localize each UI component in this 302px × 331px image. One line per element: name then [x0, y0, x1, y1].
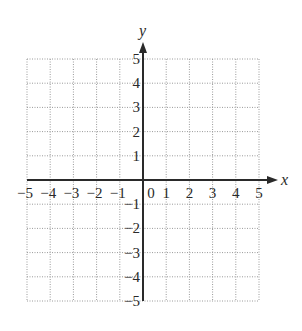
coordinate-plane: −5−4−3−2−1012345 54321−1−2−3−4−5 x y — [0, 0, 302, 331]
x-tick-label: −4 — [40, 185, 56, 201]
y-tick-label: −5 — [124, 293, 140, 309]
x-tick-label: −5 — [17, 185, 33, 201]
x-tick-label: 0 — [147, 185, 155, 201]
y-axis-label: y — [137, 22, 147, 40]
y-tick-label: −1 — [124, 196, 140, 212]
x-axis-label: x — [280, 171, 288, 188]
y-tick-label: 1 — [133, 148, 141, 164]
y-tick-label: 4 — [133, 75, 141, 91]
y-tick-label: −3 — [124, 245, 140, 261]
x-axis-arrow-icon — [267, 176, 278, 184]
x-tick-label: −3 — [63, 185, 79, 201]
x-tick-label: 5 — [255, 185, 263, 201]
y-tick-label: −2 — [124, 220, 140, 236]
x-tick-label: 3 — [209, 185, 217, 201]
y-tick-label: −4 — [124, 269, 140, 285]
y-tick-label: 3 — [133, 99, 141, 115]
x-tick-label: 4 — [232, 185, 240, 201]
y-tick-label: 2 — [133, 124, 141, 140]
y-axis-arrow-icon — [139, 42, 147, 53]
x-tick-label: 2 — [186, 185, 194, 201]
axes — [27, 42, 278, 301]
x-tick-label: −2 — [87, 185, 103, 201]
y-tick-label: 5 — [133, 51, 141, 67]
x-tick-label: 1 — [162, 185, 170, 201]
